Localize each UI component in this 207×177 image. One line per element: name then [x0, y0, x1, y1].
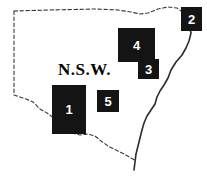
region-box-2[interactable]: 2 [181, 7, 202, 31]
region-box-4-label: 4 [133, 39, 140, 52]
map-figure: N.S.W. 1 2 3 4 5 [0, 0, 207, 177]
region-box-3-label: 3 [145, 63, 152, 76]
northern-border-line [14, 7, 181, 14]
region-box-4[interactable]: 4 [118, 28, 155, 62]
region-box-1-label: 1 [65, 103, 72, 116]
region-box-1[interactable]: 1 [52, 85, 86, 134]
state-label: N.S.W. [58, 60, 111, 80]
southern-border-line [72, 133, 136, 161]
region-box-5-label: 5 [104, 95, 111, 108]
region-box-2-label: 2 [188, 13, 195, 26]
region-box-3[interactable]: 3 [138, 59, 159, 79]
region-box-5[interactable]: 5 [97, 90, 119, 112]
map-outline-svg [0, 0, 207, 177]
